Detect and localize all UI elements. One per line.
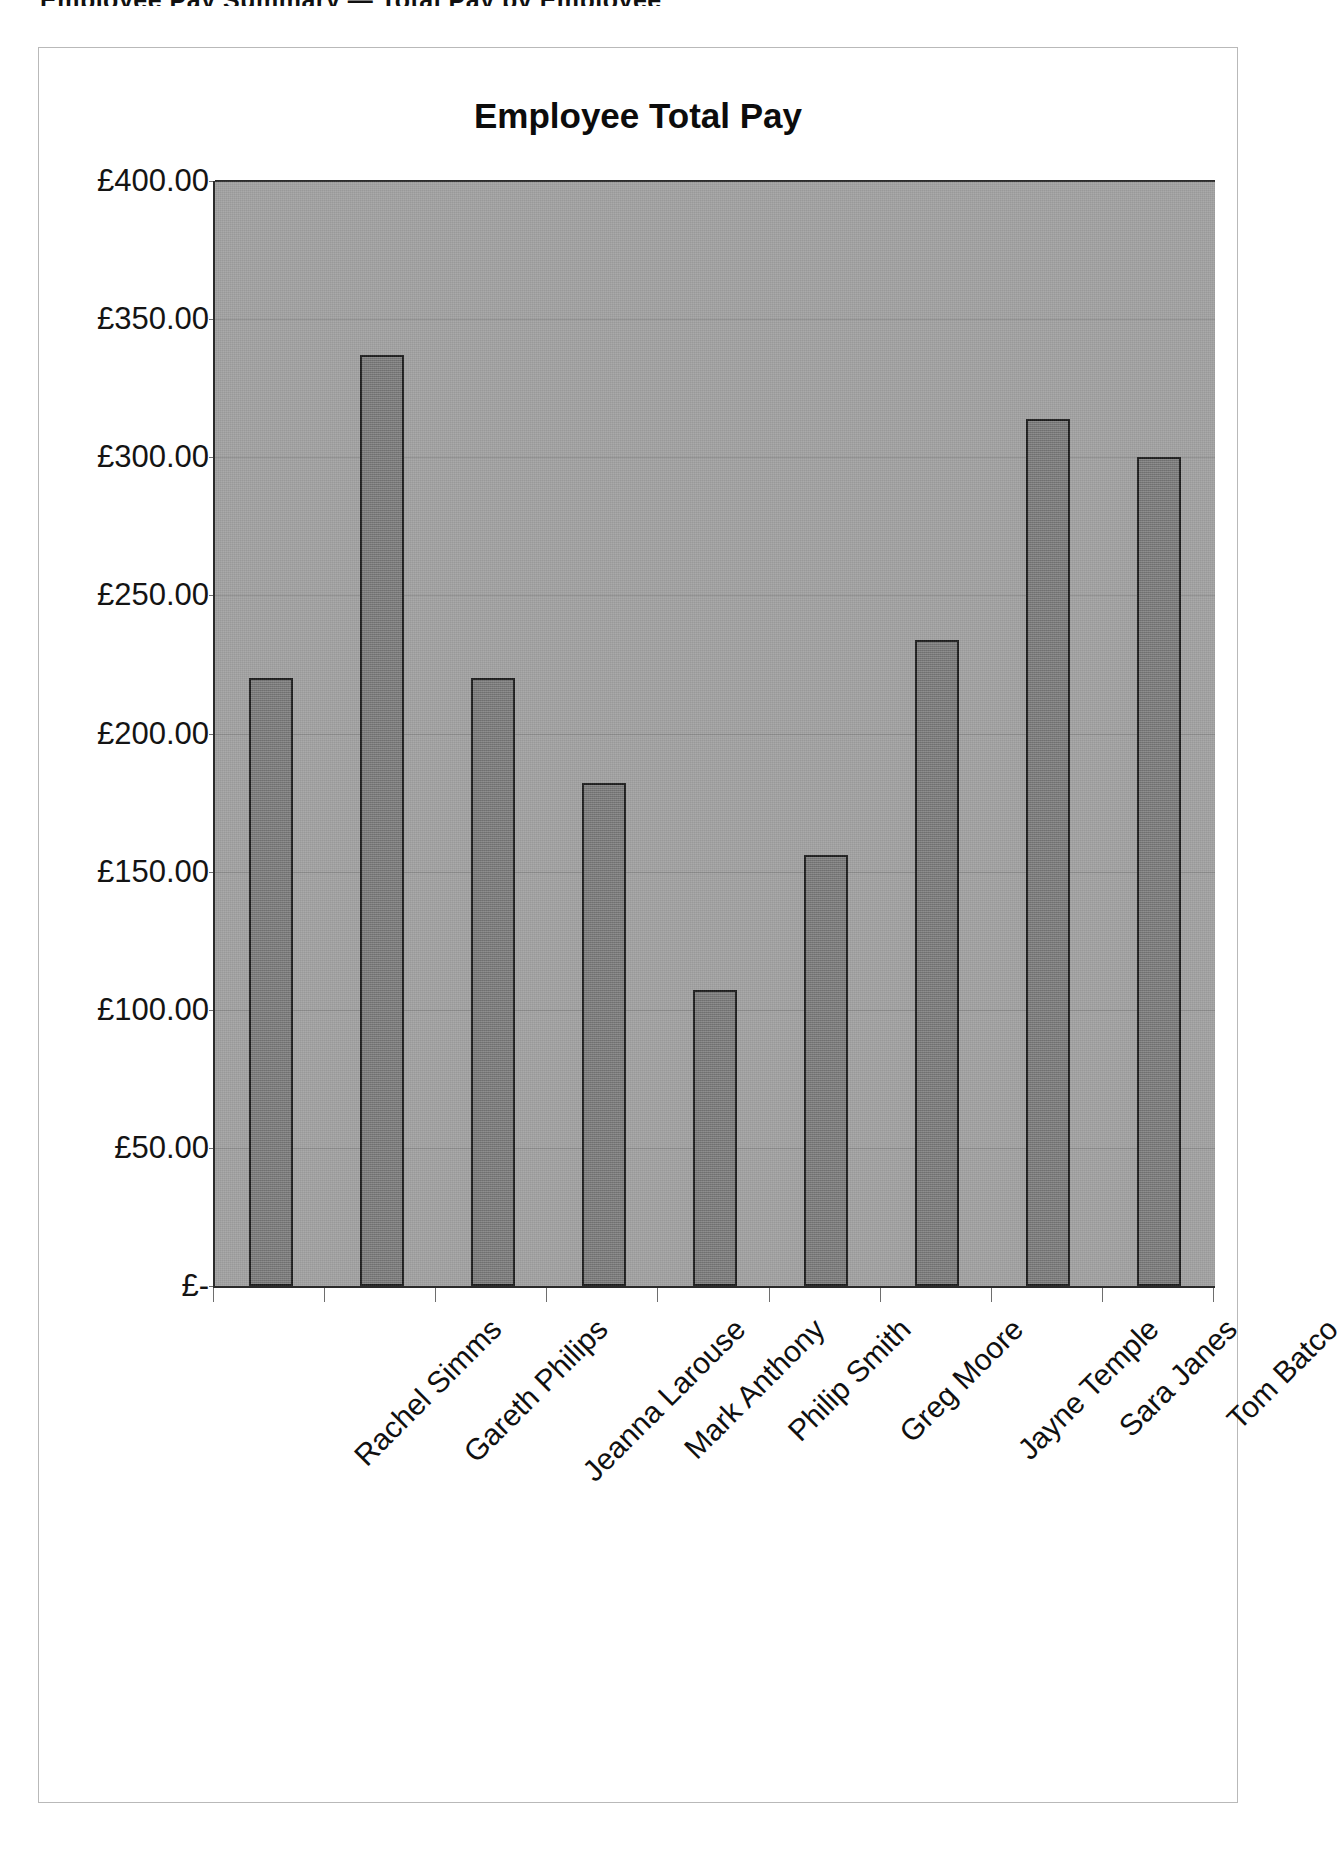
- page-header-sliver: Employee Pay Summary — Total Pay by Empl…: [0, 0, 1281, 6]
- x-axis-tick-mark: [1213, 1288, 1214, 1302]
- y-axis-tick-label: £250.00: [0, 577, 209, 613]
- bar: [915, 640, 959, 1286]
- bar: [471, 678, 515, 1286]
- chart-title: Employee Total Pay: [39, 96, 1237, 136]
- y-axis-tick-label: £400.00: [0, 163, 209, 199]
- x-axis-tick-mark: [880, 1288, 881, 1302]
- x-axis-tick-mark: [1102, 1288, 1103, 1302]
- y-axis-tick-label: £100.00: [0, 992, 209, 1028]
- chart-frame: Employee Total Pay £400.00£350.00£300.00…: [38, 47, 1238, 1803]
- bar: [1137, 457, 1181, 1286]
- bar: [1026, 419, 1070, 1286]
- bar: [249, 678, 293, 1286]
- bar: [804, 855, 848, 1286]
- y-axis-tick-label: £300.00: [0, 439, 209, 475]
- x-axis-tick-mark: [657, 1288, 658, 1302]
- x-axis-tick-mark: [435, 1288, 436, 1302]
- x-axis-tick-mark: [213, 1288, 214, 1302]
- bar: [693, 990, 737, 1286]
- bar: [360, 355, 404, 1286]
- x-axis-tick-mark: [991, 1288, 992, 1302]
- bar: [582, 783, 626, 1286]
- x-axis-tick-mark: [324, 1288, 325, 1302]
- x-axis-tick-mark: [769, 1288, 770, 1302]
- y-axis-tick-label: £350.00: [0, 301, 209, 337]
- plot-area: [213, 181, 1215, 1288]
- y-axis-tick-label: £200.00: [0, 716, 209, 752]
- plot-top-border: [215, 180, 1215, 182]
- gridline: [215, 319, 1215, 320]
- y-axis-tick-label: £-: [0, 1268, 209, 1304]
- y-axis-tick-label: £150.00: [0, 854, 209, 890]
- y-axis-tick-label: £50.00: [0, 1130, 209, 1166]
- x-axis-tick-mark: [546, 1288, 547, 1302]
